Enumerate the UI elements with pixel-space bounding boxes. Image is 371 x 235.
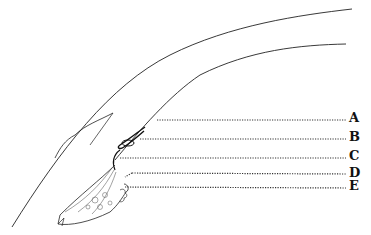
outer-curve (12, 9, 352, 227)
hook-structure (113, 150, 120, 170)
diagram-drawing (0, 0, 371, 235)
anatomical-diagram: A B C D E (0, 0, 371, 235)
label-e: E (349, 179, 359, 192)
gland-tuft (58, 165, 128, 225)
label-c: C (349, 149, 359, 162)
inner-curve (115, 44, 346, 160)
label-b: B (349, 130, 360, 143)
tissue-outline-2 (90, 113, 113, 145)
leader-lines (120, 120, 346, 188)
label-a: A (349, 111, 359, 124)
